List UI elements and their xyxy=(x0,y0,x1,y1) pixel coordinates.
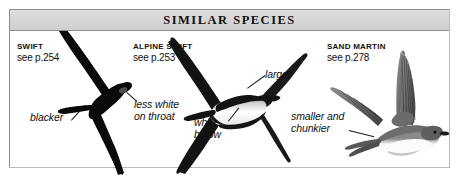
species-label-swift: SWIFT see p.254 xyxy=(17,42,59,64)
species-title-sand-martin: SAND MARTIN xyxy=(327,42,386,52)
species-page-swift: see p.254 xyxy=(17,52,59,64)
panel-frame xyxy=(9,9,450,168)
callout-less-white-line2: on throat xyxy=(134,110,179,122)
callout-white-line2: below xyxy=(194,128,221,140)
panel-header-bar: SIMILAR SPECIES xyxy=(10,10,449,31)
callout-smaller-and-chunkier: smaller and chunkier xyxy=(291,110,344,134)
species-title-alpine-swift: ALPINE SWIFT xyxy=(133,42,192,52)
callout-white-below: white below xyxy=(194,116,221,140)
species-page-sand-martin: see p.278 xyxy=(327,52,386,64)
callout-larger: larger xyxy=(265,68,291,80)
species-label-sand-martin: SAND MARTIN see p.278 xyxy=(327,42,386,64)
species-label-alpine-swift: ALPINE SWIFT see p.253 xyxy=(133,42,192,64)
callout-white-line1: white xyxy=(194,116,221,128)
species-page-alpine-swift: see p.253 xyxy=(133,52,192,64)
callout-less-white-line1: less white xyxy=(134,98,179,110)
similar-species-figure: SIMILAR SPECIES xyxy=(0,0,461,185)
species-title-swift: SWIFT xyxy=(17,42,59,52)
panel-header-title: SIMILAR SPECIES xyxy=(10,10,449,31)
callout-blacker: blacker xyxy=(30,111,63,123)
callout-less-white-on-throat: less white on throat xyxy=(134,98,179,122)
callout-smaller-line1: smaller and xyxy=(291,110,344,122)
callout-smaller-line2: chunkier xyxy=(291,122,344,134)
